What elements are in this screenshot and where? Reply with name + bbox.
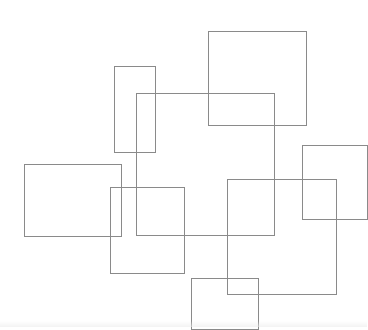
rectangle-lower-middle [110, 187, 185, 274]
rectangle-top-right [208, 31, 307, 126]
bottom-fade [0, 321, 367, 327]
rectangle-left [24, 164, 122, 237]
